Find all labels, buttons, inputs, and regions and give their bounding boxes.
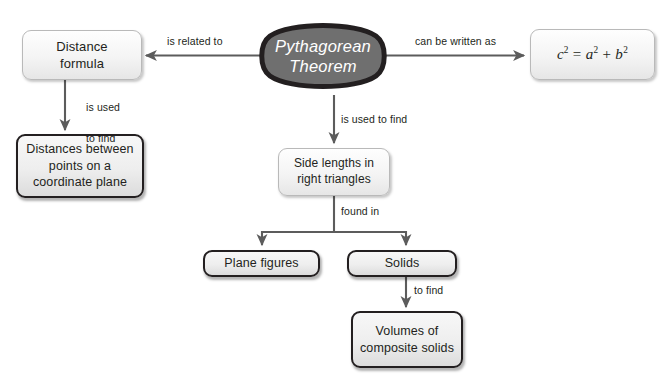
- equation-c: c: [557, 46, 564, 62]
- node-side-lengths[interactable]: Side lengths in right triangles: [278, 148, 390, 196]
- node-distance-formula-label: Distance formula: [23, 38, 141, 72]
- node-plane-figures[interactable]: Plane figures: [203, 250, 320, 277]
- equation-plus: +: [603, 46, 612, 62]
- node-pythagorean-theorem[interactable]: Pythagorean Theorem: [256, 14, 390, 98]
- node-volumes-composite-solids-label: Volumes of composite solids: [353, 323, 461, 356]
- node-solids-label: Solids: [349, 255, 455, 272]
- is-used-line-1: is used: [86, 101, 120, 113]
- distance-formula-line-2: formula: [60, 56, 104, 71]
- volumes-line-1: Volumes of: [376, 324, 439, 338]
- side-lengths-line-2: right triangles: [297, 172, 371, 186]
- equation-b-exponent: 2: [623, 45, 628, 55]
- distances-line-3: coordinate plane: [33, 175, 127, 189]
- distance-formula-line-1: Distance: [56, 39, 107, 54]
- equation-a-exponent: 2: [594, 45, 599, 55]
- edge-label-found-in: found in: [341, 204, 379, 219]
- edge-label-is-used-to-find-left: is used to find: [74, 85, 120, 161]
- edge-label-is-related-to: is related to: [167, 34, 223, 49]
- is-used-line-2: to find: [86, 132, 115, 144]
- edge-label-is-used-to-find-center: is used to find: [341, 112, 407, 127]
- node-plane-figures-label: Plane figures: [205, 255, 318, 272]
- hexagon-shape: [256, 14, 390, 98]
- equation-c-exponent: 2: [564, 45, 569, 55]
- side-lengths-line-1: Side lengths in: [294, 156, 374, 170]
- node-side-lengths-label: Side lengths in right triangles: [279, 156, 389, 188]
- node-distance-formula[interactable]: Distance formula: [22, 30, 142, 80]
- edge-label-can-be-written-as: can be written as: [415, 34, 496, 49]
- node-equation-label: c2 = a2 + b2: [531, 44, 654, 65]
- volumes-line-2: composite solids: [360, 341, 454, 355]
- node-volumes-composite-solids[interactable]: Volumes of composite solids: [351, 311, 463, 368]
- edge-label-to-find: to find: [414, 283, 443, 298]
- node-solids[interactable]: Solids: [347, 250, 457, 277]
- concept-map-diagram: Pythagorean Theorem Distance formula c2 …: [0, 0, 662, 382]
- equation-a: a: [586, 46, 594, 62]
- equation-b: b: [615, 46, 623, 62]
- equation-equals: =: [573, 46, 582, 62]
- node-equation[interactable]: c2 = a2 + b2: [530, 29, 655, 80]
